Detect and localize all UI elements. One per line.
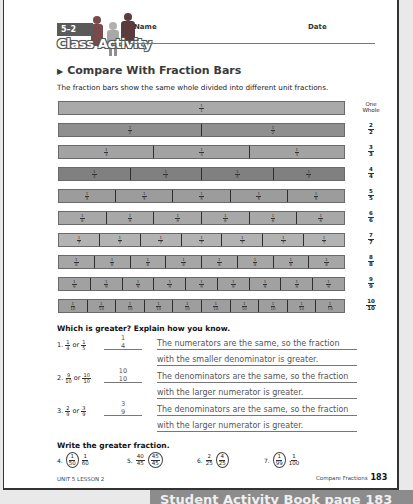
denominator: 5 xyxy=(257,197,260,201)
explanation-line-1[interactable]: The numerators are the same, so the frac… xyxy=(157,338,357,350)
circled-answer: 425 xyxy=(216,452,229,468)
denominator: 99 xyxy=(276,461,283,467)
denominator: 8 xyxy=(290,263,293,267)
fraction-bar-segment: 15 xyxy=(173,190,230,202)
explanation-line-2[interactable]: with the larger numerator is greater. xyxy=(157,420,357,432)
fraction-bar-label: 77 xyxy=(356,233,386,245)
lesson-number-badge: 5–2 xyxy=(57,23,93,36)
fraction-bar-segment: 19 xyxy=(186,278,218,290)
write-greater-item: 7.1991100 xyxy=(264,452,299,468)
fraction-bar-row: 181818181818181888 xyxy=(58,255,394,269)
denominator: 5 xyxy=(200,197,203,201)
denominator: 7 xyxy=(159,241,162,245)
fraction-bar: 161616161616 xyxy=(58,211,345,225)
fraction-bar-segment: 110 xyxy=(59,300,88,312)
denominator: 10 xyxy=(127,307,132,311)
write-greater-item: 4.150160 xyxy=(57,452,89,468)
fraction-bar-segment: 15 xyxy=(59,190,116,202)
fraction-bar-segment: 19 xyxy=(218,278,250,290)
write-greater-item: 5.40454545 xyxy=(127,452,163,468)
fraction-bar-segment: 17 xyxy=(141,234,182,246)
section-title: ▶Compare With Fraction Bars xyxy=(57,64,241,77)
question-prompt: 1. 14 or 15 xyxy=(57,340,86,351)
denominator: 7 xyxy=(323,241,326,245)
explanation-line-1[interactable]: The denominators are the same, so the fr… xyxy=(157,371,357,383)
fraction-bar-segment: 16 xyxy=(202,212,250,224)
fraction-bar-segment: 18 xyxy=(309,256,344,268)
fraction-bar-segment: 110 xyxy=(288,300,317,312)
fraction-bar-segment: 17 xyxy=(222,234,263,246)
denominator: 10 xyxy=(156,307,161,311)
fraction-a: 225 xyxy=(206,454,213,466)
fraction-bar-segment: 13 xyxy=(250,146,344,158)
page-number: 183 xyxy=(371,473,388,482)
denominator: 5 xyxy=(143,197,146,201)
fraction-bar-row: 121222 xyxy=(58,123,394,137)
denominator: 60 xyxy=(82,461,89,467)
denominator: 7 xyxy=(200,241,203,245)
fraction-bar-label: 99 xyxy=(356,277,386,289)
denominator: 4 xyxy=(164,175,167,179)
fraction-bar-segment: 110 xyxy=(231,300,260,312)
denominator: 100 xyxy=(289,461,300,467)
answer-numerator: 3 xyxy=(104,400,142,408)
fraction-b: 1010 xyxy=(82,373,90,384)
fraction-bar-segment: 110 xyxy=(145,300,174,312)
whole-fraction: 77 xyxy=(368,233,374,245)
denominator: 10 xyxy=(299,307,304,311)
fraction-bar-segment: 19 xyxy=(123,278,155,290)
fraction-bar-segment: 13 xyxy=(59,146,154,158)
fraction-bar-segment: 11 xyxy=(59,102,344,114)
whole-fraction: 44 xyxy=(368,167,374,179)
fraction-bar-segment: 15 xyxy=(288,190,344,202)
denominator: 9 xyxy=(73,285,76,289)
fraction-bar-row: 16161616161666 xyxy=(58,211,394,225)
triangle-arrow-icon: ▶ xyxy=(57,67,63,76)
question-row: 3. 29 or 3939The denominators are the sa… xyxy=(57,398,397,438)
unit-lesson-label: UNIT 5 LESSON 2 xyxy=(57,476,104,482)
denominator: 10 xyxy=(270,307,275,311)
explanation-line-1[interactable]: The denominators are the same, so the fr… xyxy=(157,404,357,416)
denominator: 10 xyxy=(99,307,104,311)
whole-fraction: 33 xyxy=(368,145,374,157)
denominator: 1 xyxy=(200,109,203,113)
denominator: 50 xyxy=(69,461,76,467)
topic-label: Compare Fractions xyxy=(316,475,368,481)
denominator: 3 xyxy=(200,153,203,157)
question-prompt: 3. 29 or 39 xyxy=(57,406,86,417)
fraction-bar-segment: 16 xyxy=(154,212,202,224)
section-intro: The fraction bars show the same whole di… xyxy=(57,83,328,92)
fraction-bar-segment: 110 xyxy=(88,300,117,312)
denominator: 10 xyxy=(367,306,375,312)
denominator: 10 xyxy=(242,307,247,311)
whole-fraction: 99 xyxy=(368,277,374,289)
fraction-bar-segment: 16 xyxy=(250,212,298,224)
fraction-bar-segment: 13 xyxy=(154,146,249,158)
denominator: 3 xyxy=(369,152,373,158)
denominator: 6 xyxy=(81,219,84,223)
fraction-bar-segment: 17 xyxy=(100,234,141,246)
denominator: 6 xyxy=(272,219,275,223)
denominator: 9 xyxy=(327,285,330,289)
fraction-bar-segment: 15 xyxy=(231,190,288,202)
fraction-b: 160 xyxy=(82,454,89,466)
denominator: 7 xyxy=(78,241,81,245)
whole-fraction: 88 xyxy=(368,255,374,267)
fraction-bar-segment: 12 xyxy=(202,124,344,136)
fraction-bar-label: OneWhole xyxy=(356,101,386,113)
denominator: 3 xyxy=(296,153,299,157)
fraction-bar-segment: 14 xyxy=(131,168,203,180)
fraction-bar: 191919191919191919 xyxy=(58,277,345,291)
whole-fraction: 66 xyxy=(368,211,374,223)
section-title-text: Compare With Fraction Bars xyxy=(67,64,241,77)
fraction-bar-label: 1010 xyxy=(356,299,386,311)
fraction-bar-segment: 17 xyxy=(182,234,223,246)
answer-numerator: 10 xyxy=(104,367,142,375)
denominator: 9 xyxy=(168,285,171,289)
denominator: 2 xyxy=(129,131,132,135)
fraction-bar-segment: 19 xyxy=(59,278,91,290)
fraction-bar-segment: 16 xyxy=(297,212,344,224)
fraction-bar: 11 xyxy=(58,101,345,115)
write-greater-heading: Write the greater fraction. xyxy=(57,441,169,450)
denominator: 10 xyxy=(213,307,218,311)
